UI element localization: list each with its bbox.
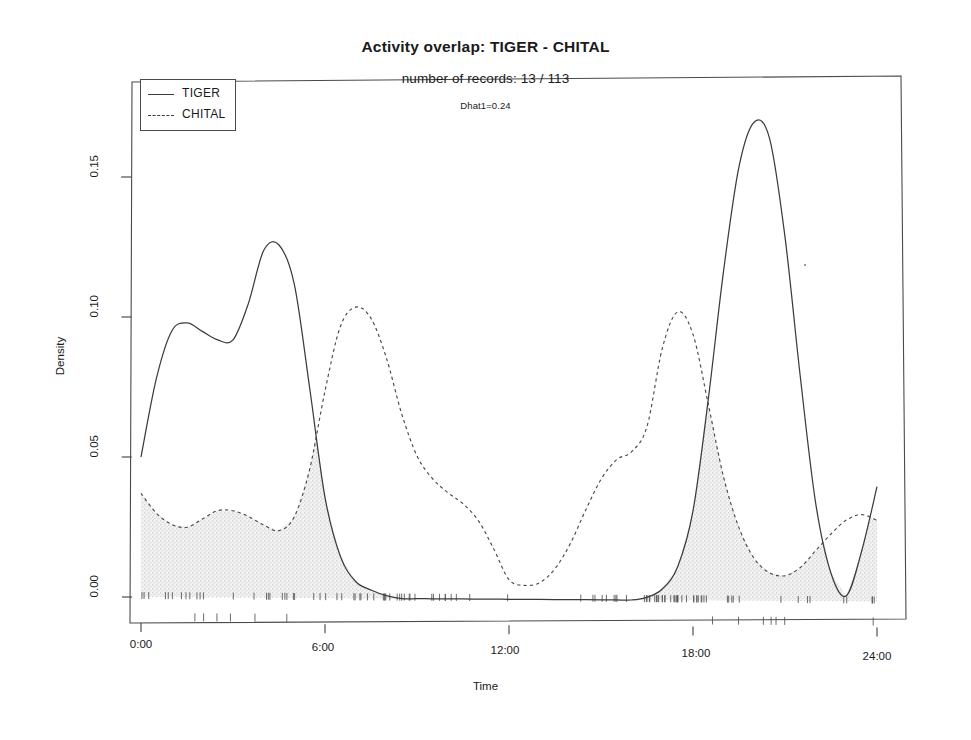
- legend: TIGER CHITAL: [140, 79, 236, 131]
- overlap-shaded-region: [141, 404, 877, 601]
- y-tick-label-3: 0.15: [88, 155, 100, 199]
- x-tick-label-0: 0:00: [111, 638, 171, 650]
- dashed-line-key: [148, 115, 174, 117]
- y-tick-label-0: 0.00: [88, 575, 100, 619]
- x-axis-title: Time: [0, 680, 971, 692]
- solid-line-key: [148, 94, 174, 96]
- y-tick-label-1: 0.05: [88, 435, 100, 479]
- x-tick-label-4: 24:00: [847, 650, 907, 662]
- activity-overlap-figure: Activity overlap: TIGER - CHITAL number …: [0, 0, 971, 740]
- scan-speck: [804, 264, 806, 266]
- legend-entry-tiger: TIGER: [141, 85, 237, 105]
- y-tick-label-2: 0.10: [88, 295, 100, 339]
- x-tick-label-2: 12:00: [475, 644, 535, 656]
- y-axis-title: Density: [54, 296, 66, 416]
- legend-entry-chital: CHITAL: [141, 106, 237, 126]
- x-tick-label-1: 6:00: [293, 641, 353, 653]
- x-tick-label-3: 18:00: [666, 647, 726, 659]
- x-axis-ticks: [141, 623, 877, 637]
- legend-label-chital: CHITAL: [182, 107, 226, 121]
- chart-title: Activity overlap: TIGER - CHITAL: [0, 38, 971, 56]
- legend-label-tiger: TIGER: [182, 86, 220, 100]
